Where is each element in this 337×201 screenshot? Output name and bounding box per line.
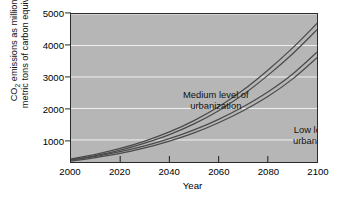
annotation-low-urbanization: Low level of urbanization (293, 124, 318, 146)
x-tick-label-2040: 2040 (159, 166, 180, 177)
x-tick-label-2100: 2100 (307, 166, 328, 177)
x-axis-title: Year (0, 180, 337, 191)
y-tick-label-3000: 3000 (43, 71, 64, 82)
y-axis-title-line2: metric tons of carbon equivalent (20, 0, 32, 108)
y-axis-title-subscript: 2 (13, 84, 20, 88)
x-tick-label-2020: 2020 (109, 166, 130, 177)
plot-area: Medium level of urbanization Low level o… (70, 13, 318, 163)
x-tick-marks (120, 156, 268, 162)
y-tick-label-4000: 4000 (43, 39, 64, 50)
annotation-medium-line2: urbanization (183, 100, 249, 111)
y-axis-title-rest: emissions as millions of (9, 0, 19, 84)
annotation-medium-urbanization: Medium level of urbanization (183, 89, 249, 111)
annotation-low-line1: Low level of (293, 124, 318, 135)
y-tick-label-1000: 1000 (43, 135, 64, 146)
x-tick-label-2000: 2000 (59, 166, 80, 177)
plot-svg (71, 14, 317, 162)
annotation-low-line2: urbanization (293, 135, 318, 146)
y-axis-title: CO2 emissions as millions of metric tons… (6, 0, 34, 123)
y-tick-label-2000: 2000 (43, 103, 64, 114)
x-tick-label-2060: 2060 (208, 166, 229, 177)
y-axis-title-co: CO (9, 88, 19, 102)
x-tick-label-2080: 2080 (258, 166, 279, 177)
chart-figure: CO2 emissions as millions of metric tons… (0, 0, 337, 201)
y-tick-label-5000: 5000 (43, 8, 64, 19)
x-axis-title-text: Year (183, 180, 202, 191)
annotation-medium-line1: Medium level of (183, 89, 249, 100)
y-axis-title-line1: CO2 emissions as millions of (9, 0, 21, 101)
